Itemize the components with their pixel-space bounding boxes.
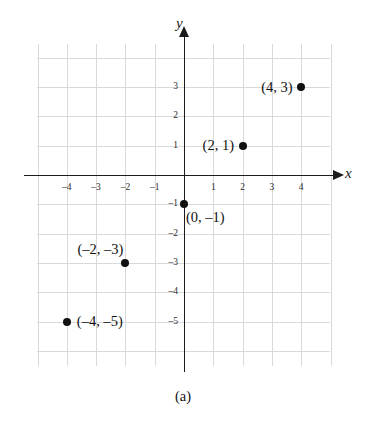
data-point [239, 142, 247, 150]
x-tick-label: –3 [84, 183, 108, 193]
x-tick-label: 4 [289, 183, 313, 193]
x-tick-label: –4 [55, 183, 79, 193]
x-tick-label: –1 [143, 183, 167, 193]
y-tick-label: 2 [154, 111, 178, 121]
y-tick-label: 1 [154, 141, 178, 151]
grid-line-vertical [331, 44, 332, 366]
x-tick-label: 3 [260, 183, 284, 193]
y-tick-label: 3 [154, 82, 178, 92]
x-tick-label: –2 [113, 183, 137, 193]
y-tick-label: –2 [154, 229, 178, 239]
data-point-label: (–2, –3) [77, 242, 123, 257]
data-point-label: (4, 3) [261, 80, 292, 95]
x-axis-arrowhead [333, 170, 344, 180]
y-tick-label: –4 [154, 287, 178, 297]
x-tick-label: 2 [231, 183, 255, 193]
x-tick-label: 1 [201, 183, 225, 193]
data-point-label: (0, –1) [186, 210, 225, 225]
y-axis-label: y [176, 16, 183, 31]
data-point [63, 318, 71, 326]
x-axis-line [24, 175, 334, 176]
data-point-label: (–4, –5) [77, 314, 123, 329]
data-point-label: (2, 1) [203, 138, 234, 153]
figure-caption: (a) [0, 388, 366, 405]
coordinate-plane-figure: x y –4–3–2–11234 321–1–2–3–4–5 (4, 3)(2,… [0, 0, 366, 422]
y-tick-label: –1 [154, 199, 178, 209]
x-axis-label: x [345, 166, 352, 181]
y-tick-label: –5 [154, 317, 178, 327]
y-tick-label: –3 [154, 258, 178, 268]
